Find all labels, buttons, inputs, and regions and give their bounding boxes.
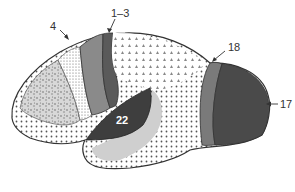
label-area-1-3: 1–3 — [111, 7, 129, 19]
leader-1-3 — [110, 19, 115, 30]
area-17-primary-visual — [213, 64, 269, 145]
label-area-4: 4 — [50, 20, 56, 32]
label-area-17: 17 — [280, 98, 292, 110]
brain-diagram: 4 1–3 18 17 22 — [0, 0, 295, 192]
label-area-18: 18 — [228, 41, 240, 53]
label-area-22: 22 — [116, 114, 128, 126]
